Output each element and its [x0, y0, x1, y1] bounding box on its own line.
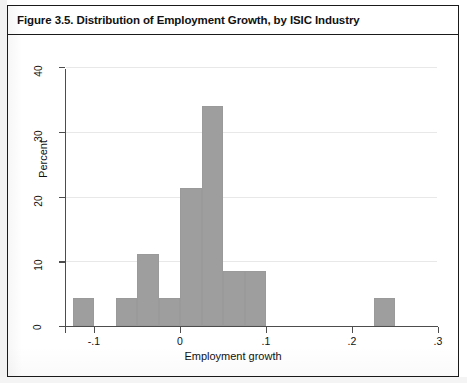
histogram-bar: [374, 298, 396, 326]
y-tick-label-20: 20: [33, 195, 44, 206]
y-tick-30: [59, 132, 65, 133]
x-tick-.3: [438, 327, 439, 333]
histogram-bar: [137, 254, 159, 326]
y-tick-40: [59, 67, 65, 68]
y-tick-label-10: 10: [33, 260, 44, 271]
histogram-bar: [245, 271, 267, 326]
y-tick-label-40: 40: [33, 66, 44, 77]
y-axis-line: [65, 69, 66, 333]
page-left-margin: [0, 0, 7, 383]
y-tick-0: [59, 326, 65, 327]
x-axis-line: [65, 326, 438, 327]
screenshot-page: Figure 3.5. Distribution of Employment G…: [0, 0, 467, 383]
x-tick-label-.1: .1: [262, 335, 271, 347]
histogram-bar: [116, 298, 138, 326]
x-tick-.1: [266, 327, 267, 333]
x-tick-.2: [352, 327, 353, 333]
gridline-40: [66, 67, 437, 68]
x-tick-label-0: 0: [177, 335, 183, 347]
x-tick-label-.3: .3: [434, 335, 443, 347]
x-axis-title: Employment growth: [8, 350, 458, 362]
histogram-bar: [159, 298, 181, 326]
figure-frame: Figure 3.5. Distribution of Employment G…: [7, 5, 459, 377]
y-tick-10: [59, 261, 65, 262]
y-tick-label-0: 0: [33, 325, 44, 331]
figure-title: Figure 3.5. Distribution of Employment G…: [8, 14, 360, 26]
gridline-30: [66, 132, 437, 133]
y-tick-20: [59, 197, 65, 198]
x-tick-label--.1: -.1: [88, 335, 100, 347]
histogram-bar: [202, 106, 224, 326]
page-bottom-margin: [0, 377, 467, 383]
y-axis-title: Percent: [37, 140, 49, 178]
histogram-bar: [73, 298, 95, 326]
histogram-bar: [223, 271, 245, 326]
chart-plot-area: 010203040 -.10.1.2.3 Percent Employment …: [8, 35, 458, 376]
gridline-10: [66, 261, 437, 262]
histogram-bar: [180, 188, 202, 326]
x-tick-label-.2: .2: [348, 335, 357, 347]
x-tick--.1: [94, 327, 95, 333]
figure-title-bar: Figure 3.5. Distribution of Employment G…: [8, 6, 458, 35]
gridline-20: [66, 197, 437, 198]
x-tick-0: [180, 327, 181, 333]
